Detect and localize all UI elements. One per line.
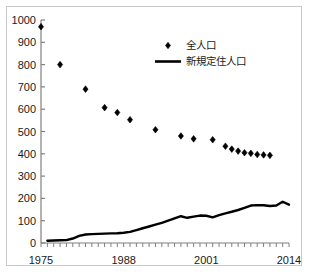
data-point-marker — [115, 109, 120, 116]
x-axis-tick-label: 1975 — [29, 254, 53, 266]
x-axis-tick-label: 1988 — [111, 254, 135, 266]
data-point-marker — [255, 151, 260, 158]
data-point-marker — [38, 23, 43, 30]
legend-entry-label: 新規定住人口 — [186, 55, 246, 67]
y-axis-tick-label: 300 — [18, 170, 36, 182]
y-axis-tick-label: 100 — [18, 215, 36, 227]
data-point-marker — [127, 116, 132, 123]
data-point-marker — [261, 152, 266, 159]
x-axis-tick-label: 2001 — [194, 254, 218, 266]
diamond-marker-icon — [166, 42, 171, 48]
y-axis-tick-label: 200 — [18, 192, 36, 204]
y-axis-tick-label: 900 — [18, 36, 36, 48]
x-axis: 1975198820012014 — [29, 243, 301, 266]
data-point-marker — [102, 104, 107, 111]
series-points-total-population — [38, 23, 272, 158]
y-axis-tick-label: 700 — [18, 81, 36, 93]
data-point-marker — [191, 136, 196, 143]
series-line-new-settlers — [47, 202, 289, 241]
data-point-marker — [248, 150, 253, 157]
y-axis-tick-label: 1000 — [12, 14, 36, 26]
y-axis: 01002003004005006007008009001000 — [12, 14, 45, 249]
data-point-marker — [242, 149, 247, 156]
data-point-marker — [236, 148, 241, 155]
y-axis-tick-label: 600 — [18, 103, 36, 115]
y-axis-tick-label: 500 — [18, 126, 36, 138]
legend-entry-label: 全人口 — [186, 39, 216, 51]
y-axis-tick-label: 800 — [18, 59, 36, 71]
data-point-marker — [178, 133, 183, 140]
chart-plot-area: 01002003004005006007008009001000 1975198… — [0, 0, 309, 277]
data-point-marker — [83, 86, 88, 93]
data-point-marker — [267, 152, 272, 159]
chart-figure: 01002003004005006007008009001000 1975198… — [0, 0, 309, 277]
y-axis-tick-label: 0 — [30, 237, 36, 249]
x-axis-tick-label: 2014 — [277, 254, 301, 266]
chart-legend: 全人口新規定住人口 — [155, 39, 246, 67]
y-axis-tick-label: 400 — [18, 148, 36, 160]
data-point-marker — [58, 61, 63, 68]
data-point-marker — [223, 143, 228, 150]
data-point-marker — [229, 146, 234, 153]
data-point-marker — [210, 136, 215, 143]
data-point-marker — [153, 126, 158, 133]
